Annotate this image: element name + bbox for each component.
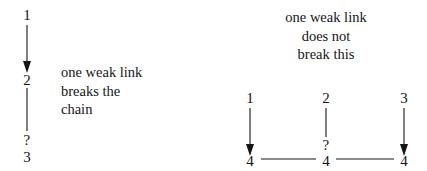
caption-right-chain: one weak link does not break this [266,8,386,64]
node-left-question: ? [18,133,36,148]
node-right-bottom-3: 4 [395,154,413,169]
node-left-1: 1 [18,8,36,23]
node-left-3: 3 [18,150,36,165]
node-right-bottom-2: 4 [317,154,335,169]
caption-left-chain: one weak link breaks the chain [61,63,142,119]
node-right-question: ? [317,138,335,153]
node-right-bottom-1: 4 [241,154,259,169]
node-right-top-2: 2 [317,91,335,106]
node-right-top-1: 1 [241,91,259,106]
diagram-canvas: 1 2 ? 3 one weak link breaks the chain o… [0,0,427,171]
node-left-2: 2 [18,73,36,88]
node-right-top-3: 3 [395,91,413,106]
